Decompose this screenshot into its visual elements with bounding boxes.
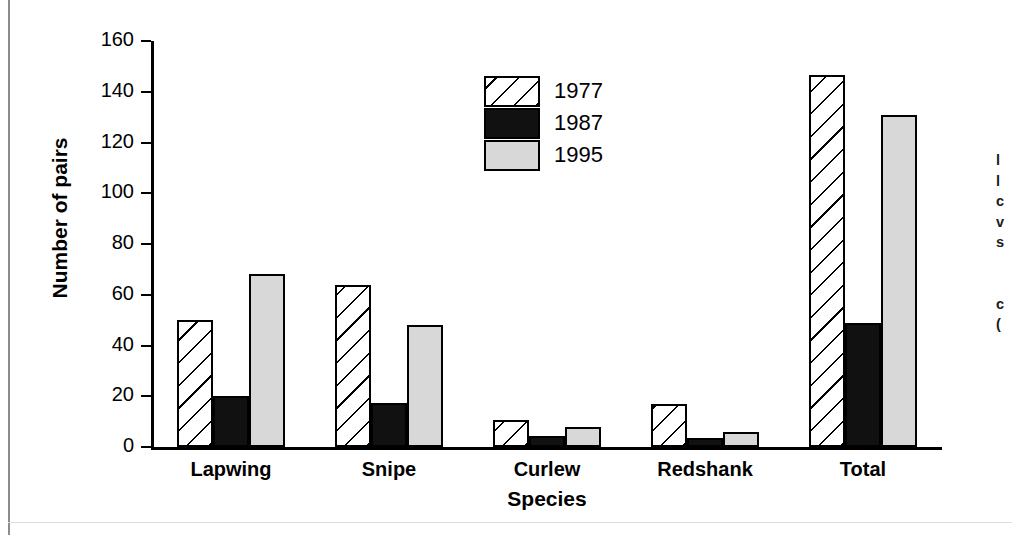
legend-swatch-1995	[484, 140, 540, 171]
bar-group	[809, 41, 917, 447]
legend-swatch-1977	[484, 76, 540, 107]
legend-label-1995: 1995	[554, 142, 603, 168]
bar-lapwing-1995	[249, 274, 285, 447]
bar-lapwing-1977	[177, 320, 213, 447]
page: l l c v s c ( 020406080100120140160 Numb…	[0, 0, 1012, 535]
bar-lapwing-1987	[213, 396, 249, 447]
x-category-label-snipe: Snipe	[310, 458, 468, 481]
bar-total-1987	[845, 323, 881, 447]
bar-group	[177, 41, 285, 447]
bar-snipe-1995	[407, 325, 443, 447]
bar-curlew-1977	[493, 420, 529, 447]
bar-snipe-1987	[371, 403, 407, 447]
bar-total-1977	[809, 75, 845, 447]
legend-swatch-1987	[484, 108, 540, 139]
x-axis-title: Species	[152, 487, 942, 511]
bar-curlew-1987	[529, 436, 565, 447]
legend-label-1977: 1977	[554, 78, 603, 104]
bar-redshank-1995	[723, 432, 759, 447]
x-category-label-total: Total	[784, 458, 942, 481]
bar-redshank-1977	[651, 404, 687, 447]
x-category-label-curlew: Curlew	[468, 458, 626, 481]
x-category-label-redshank: Redshank	[626, 458, 784, 481]
bar-group	[651, 41, 759, 447]
bar-curlew-1995	[565, 427, 601, 447]
bar-redshank-1987	[687, 438, 723, 447]
x-category-label-lapwing: Lapwing	[152, 458, 310, 481]
bar-chart-figure: 020406080100120140160 Number of pairs Sp…	[0, 0, 1012, 535]
bar-total-1995	[881, 115, 917, 447]
bars-layer	[0, 0, 1012, 450]
bar-group	[335, 41, 443, 447]
bar-snipe-1977	[335, 285, 371, 447]
legend-label-1987: 1987	[554, 110, 603, 136]
